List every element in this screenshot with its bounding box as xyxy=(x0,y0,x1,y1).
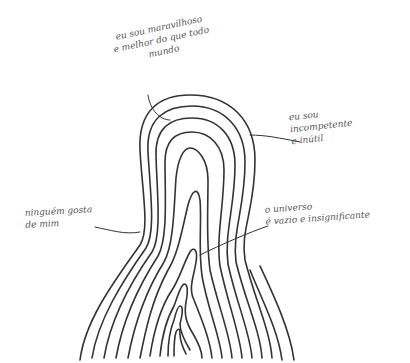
contour-drawing xyxy=(0,0,410,363)
annotation-left: ninguém gosta de mim xyxy=(24,203,93,231)
contour-line-9 xyxy=(168,306,190,356)
annotation-right-upper: eu sou incompetente e inútil xyxy=(288,105,354,147)
contour-line-12 xyxy=(260,266,294,360)
contour-line-10 xyxy=(174,329,186,356)
leader-line-right-lower xyxy=(200,226,268,255)
contour-line-3 xyxy=(104,118,252,358)
contour-line-11 xyxy=(250,270,282,360)
leader-line-left xyxy=(95,227,140,233)
